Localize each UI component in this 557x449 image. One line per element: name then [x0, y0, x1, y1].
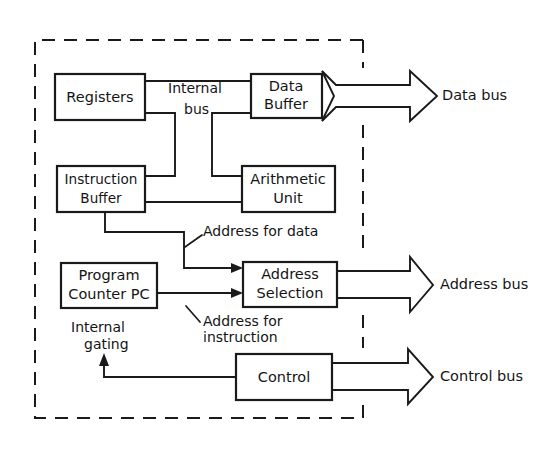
program-counter-label-line2: Counter PC: [68, 286, 149, 302]
address-for-data-label: Address for data: [203, 223, 318, 239]
diagram-canvas: Registers Data Buffer Instruction Buffer…: [0, 0, 557, 449]
data-buffer-label-line1: Data: [269, 78, 304, 94]
block-data-buffer[interactable]: Data Buffer: [251, 74, 322, 118]
address-for-instruction-label-line1: Address for: [203, 313, 283, 329]
block-registers[interactable]: Registers: [55, 74, 145, 120]
arrowhead-address-for-instruction: [231, 288, 243, 298]
data-bus-arrow[interactable]: [322, 71, 437, 121]
internal-gating-label-line1: Internal: [71, 319, 125, 335]
wire-control-to-internal-gating: [104, 362, 236, 377]
leader-address-for-instruction: [186, 306, 200, 322]
block-instruction-buffer[interactable]: Instruction Buffer: [57, 166, 145, 212]
address-for-instruction-label-line2: instruction: [203, 329, 278, 345]
address-bus-label: Address bus: [440, 276, 528, 292]
block-program-counter[interactable]: Program Counter PC: [61, 263, 157, 308]
address-bus-arrow[interactable]: [337, 257, 433, 312]
block-arithmetic-unit[interactable]: Arithmetic Unit: [242, 166, 335, 212]
control-bus-label: Control bus: [440, 368, 523, 384]
block-address-selection[interactable]: Address Selection: [243, 262, 337, 307]
wire-address-for-data: [105, 212, 236, 268]
program-counter-label-line1: Program: [78, 267, 139, 283]
arrowhead-address-for-data: [231, 263, 243, 273]
internal-bus-label-line1: Internal: [168, 80, 222, 96]
block-control[interactable]: Control: [236, 354, 332, 400]
arithmetic-unit-label-line1: Arithmetic: [250, 171, 326, 187]
internal-bus-label-line2: bus: [184, 101, 209, 117]
address-selection-label-line2: Selection: [257, 285, 324, 301]
data-bus-label: Data bus: [442, 87, 507, 103]
arrowhead-internal-gating: [99, 353, 109, 366]
cpu-block-diagram: Registers Data Buffer Instruction Buffer…: [0, 0, 557, 449]
internal-gating-label-line2: gating: [84, 336, 129, 352]
wire-registers-to-instruction-buffer: [145, 113, 175, 176]
address-selection-label-line1: Address: [261, 266, 319, 282]
instruction-buffer-label-line2: Buffer: [80, 190, 122, 206]
arithmetic-unit-label-line2: Unit: [273, 190, 303, 206]
control-bus-arrow[interactable]: [332, 349, 433, 404]
registers-label: Registers: [66, 89, 133, 105]
control-label: Control: [258, 369, 310, 385]
leader-address-for-data: [185, 235, 202, 247]
data-buffer-label-line2: Buffer: [264, 96, 308, 112]
instruction-buffer-label-line1: Instruction: [65, 171, 138, 187]
